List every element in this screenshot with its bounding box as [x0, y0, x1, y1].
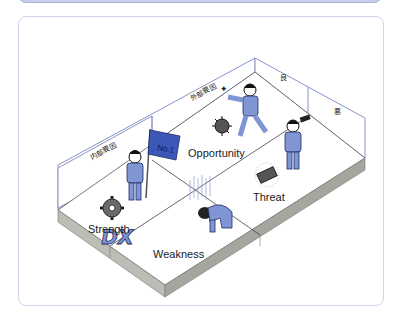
- sparkle-icon: ✦: [220, 84, 228, 94]
- weakness-label: Weakness: [153, 248, 205, 260]
- strength-label: Strength: [88, 223, 130, 235]
- swot-illustration: 内部要因 外部要因 良 悪 No.1 ✦: [0, 0, 402, 322]
- bad-label: 悪: [334, 108, 341, 115]
- opportunity-label: Opportunity: [188, 147, 245, 159]
- good-label: 良: [280, 73, 287, 82]
- threat-label: Threat: [253, 191, 285, 203]
